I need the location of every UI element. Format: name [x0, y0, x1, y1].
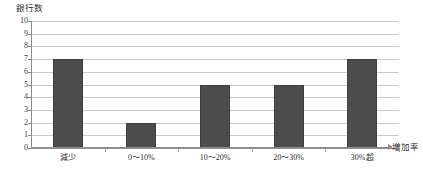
y-axis-tick-label: 10 — [6, 17, 28, 25]
plot-area — [31, 21, 399, 148]
bar-chart: 銀行数 109876543210 増加率 減少0〜10%10〜20%20〜30%… — [0, 0, 423, 178]
bar — [347, 59, 377, 148]
gridline — [31, 59, 399, 60]
y-axis-tick-mark — [28, 59, 32, 60]
bar — [53, 59, 83, 148]
y-axis-tick-mark — [28, 46, 32, 47]
y-axis-tick-label: 2 — [6, 119, 28, 127]
y-axis-tick-mark — [28, 110, 32, 111]
bar — [274, 85, 304, 149]
y-axis-tick-mark — [28, 72, 32, 73]
y-axis-tick-mark — [28, 135, 32, 136]
y-axis-tick-label: 1 — [6, 131, 28, 139]
y-axis-tick-label: 9 — [6, 30, 28, 38]
y-axis-tick-label: 0 — [6, 144, 28, 152]
y-axis-tick-label: 3 — [6, 106, 28, 114]
y-axis-tick-labels: 109876543210 — [2, 0, 28, 178]
x-axis-category-label: 30%超 — [325, 153, 399, 162]
y-axis-tick-label: 4 — [6, 93, 28, 101]
x-axis-line — [31, 147, 390, 148]
x-axis-tick-mark — [105, 148, 106, 152]
x-axis-tick-mark — [252, 148, 253, 152]
y-axis-tick-label: 5 — [6, 81, 28, 89]
y-axis-tick-label: 7 — [6, 55, 28, 63]
bar — [200, 85, 230, 149]
x-axis-title: 増加率 — [392, 140, 420, 152]
gridline — [31, 72, 399, 73]
gridline — [31, 148, 399, 149]
x-axis-category-label: 減少 — [31, 153, 105, 162]
y-axis-tick-mark — [28, 148, 32, 149]
y-axis-tick-mark — [28, 34, 32, 35]
y-axis-tick-mark — [28, 21, 32, 22]
x-axis-tick-mark — [399, 148, 400, 152]
y-axis-tick-mark — [28, 97, 32, 98]
gridline — [31, 46, 399, 47]
gridline — [31, 21, 399, 22]
x-axis-tick-mark — [178, 148, 179, 152]
gridline — [31, 34, 399, 35]
x-axis-tick-mark — [325, 148, 326, 152]
y-axis-tick-label: 6 — [6, 68, 28, 76]
y-axis-tick-mark — [28, 85, 32, 86]
y-axis-tick-mark — [28, 123, 32, 124]
page-bottom-edge — [0, 176, 423, 178]
bar — [126, 123, 156, 148]
y-axis-tick-label: 8 — [6, 42, 28, 50]
x-axis-category-label: 0〜10% — [105, 153, 179, 162]
x-axis-category-label: 20〜30% — [252, 153, 326, 162]
x-axis-category-label: 10〜20% — [178, 153, 252, 162]
